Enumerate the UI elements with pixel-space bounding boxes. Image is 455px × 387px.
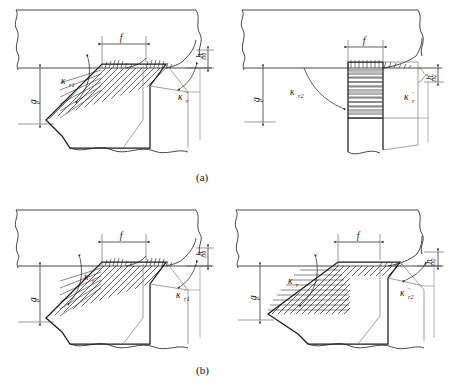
label-entering-angle: κ <box>84 272 89 282</box>
label-entering-angle: κ <box>61 76 66 86</box>
label-chip-thickness-sub: D2 <box>430 73 437 83</box>
chip-section-hatch <box>46 266 166 318</box>
figure-root: a p f h D1 κ r1 <box>0 0 455 387</box>
panel-a-right-drawing: a p f h D2 κ r2 κ <box>228 0 455 170</box>
caption-a: (a) <box>196 171 208 183</box>
panel-b-left: a p f h D1 κ r κ ′ <box>0 196 228 361</box>
label-minor-entering-angle-prime: ′ <box>184 288 186 295</box>
label-minor-entering-angle: κ <box>176 290 181 300</box>
panel-b-right-drawing: a p f h D2 κ r κ ′ <box>228 196 455 361</box>
cut-surface-profile <box>383 38 422 68</box>
label-depth-of-cut-sub: p <box>33 299 40 303</box>
label-minor-entering-angle-sub: r <box>412 97 415 104</box>
label-depth-of-cut-sub: p <box>256 99 263 103</box>
workpiece-outline <box>15 210 201 268</box>
label-feed: f <box>120 231 124 241</box>
panel-b-left-drawing: a p f h D1 κ r κ ′ <box>0 196 228 361</box>
tool-shank-break <box>348 151 380 154</box>
label-chip-thickness-sub: D2 <box>429 257 436 267</box>
label-entering-angle: κ <box>288 276 293 286</box>
dim-depth-of-cut <box>244 68 276 122</box>
label-minor-entering-angle-prime: ′ <box>412 90 414 97</box>
label-minor-entering-angle: κ <box>404 92 409 102</box>
label-entering-angle-sub: r <box>296 281 299 288</box>
label-chip-thickness-sub: D1 <box>200 52 207 61</box>
label-feed: f <box>357 231 361 241</box>
label-entering-angle-sub: r1 <box>69 81 75 88</box>
dim-depth-of-cut <box>18 68 54 124</box>
label-depth-of-cut-sub: p <box>253 297 260 301</box>
label-chip-thickness-sub: D1 <box>200 250 207 259</box>
label-minor-entering-angle-sub: r2 <box>408 293 414 300</box>
dim-depth-of-cut <box>18 266 54 322</box>
label-depth-of-cut-sub: p <box>33 101 40 105</box>
angle-arc-minor-entering <box>181 264 196 286</box>
tool-body-secondary <box>383 62 418 150</box>
label-feed: f <box>120 33 124 43</box>
workpiece-outline <box>15 10 201 70</box>
angle-arc-entering <box>304 68 342 108</box>
label-feed: f <box>363 36 367 46</box>
dim-depth-of-cut <box>238 266 274 320</box>
panel-a-right: a p f h D2 κ r2 κ <box>228 0 455 170</box>
label-minor-entering-angle-sub: r <box>186 97 189 104</box>
label-minor-entering-angle-sub: r1 <box>184 295 190 302</box>
label-minor-entering-angle-prime: ′ <box>408 286 410 293</box>
angle-arc-minor-entering <box>406 266 424 280</box>
label-entering-angle-sub: r2 <box>298 92 304 99</box>
angle-arc-minor-entering <box>181 66 196 88</box>
panel-a-left-drawing: a p f h D1 κ r1 <box>0 0 228 170</box>
workpiece-outline <box>241 10 423 70</box>
panel-a-left: a p f h D1 κ r1 <box>0 0 228 170</box>
label-entering-angle: κ <box>290 87 295 97</box>
feed-band-hatch <box>351 60 411 68</box>
dim-feed <box>348 40 383 68</box>
chip-section-hatch <box>348 68 383 118</box>
panel-b-right: a p f h D2 κ r κ ′ <box>228 196 455 361</box>
label-minor-entering-angle: κ <box>178 92 183 102</box>
caption-b: (b) <box>196 364 209 376</box>
label-minor-entering-angle: κ <box>400 288 405 298</box>
workpiece-outline <box>235 210 423 268</box>
